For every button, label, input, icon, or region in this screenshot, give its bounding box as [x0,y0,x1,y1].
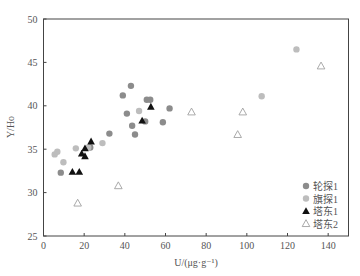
data-point [317,62,325,69]
x-tick-label: 140 [321,240,336,251]
data-points [51,46,324,206]
scatter-chart: 020406080100120140 253035404550 U/(μg·g⁻… [0,0,360,276]
data-point [258,93,264,99]
legend-label: 旗探1 [313,193,338,205]
y-tick-label: 30 [28,187,38,198]
data-point [132,131,138,137]
y-axis-label: Y/Ho [5,116,16,138]
data-point [87,138,95,145]
x-tick-label: 20 [79,240,89,251]
data-point [234,131,242,138]
data-point [293,46,299,52]
legend-marker-icon [303,195,309,201]
x-axis-label: U/(μg·g⁻¹) [174,257,218,269]
data-point [128,83,134,89]
y-tick-label: 40 [28,100,38,111]
x-tick-label: 100 [239,240,254,251]
x-tick-label: 60 [161,240,171,251]
plot-frame [44,19,349,236]
data-point [99,140,105,146]
data-point [166,105,172,111]
x-tick-label: 40 [120,240,130,251]
data-point [75,168,83,175]
data-point [188,108,196,115]
legend-label: 塔东2 [313,218,338,230]
data-point [147,103,155,110]
x-tick-label: 80 [201,240,211,251]
y-tick-label: 50 [28,14,38,25]
data-point [74,199,82,206]
data-point [106,130,112,136]
x-tick-label: 120 [280,240,295,251]
legend-marker-icon [303,183,309,189]
data-point [136,108,142,114]
data-point [115,182,123,189]
data-point [51,151,57,157]
data-point [147,97,153,103]
y-tick-label: 45 [28,57,38,68]
legend-marker-icon [302,220,310,227]
legend: 轮探1旗探1塔东1塔东2 [302,180,338,230]
data-point [120,92,126,98]
data-point [160,119,166,125]
x-tick-label: 0 [41,240,46,251]
data-point [69,168,77,175]
data-point [58,169,64,175]
data-point [239,108,247,115]
y-tick-label: 25 [28,231,38,242]
data-point [73,145,79,151]
legend-label: 塔东1 [313,205,338,217]
data-point [124,110,130,116]
data-point [129,123,135,129]
data-point [60,159,66,165]
legend-label: 轮探1 [313,180,338,192]
y-tick-label: 35 [28,144,38,155]
legend-marker-icon [302,207,310,214]
